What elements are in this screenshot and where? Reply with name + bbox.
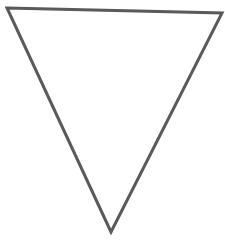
triangle-figure: [0, 0, 225, 245]
inverted-triangle-shape: [7, 8, 222, 232]
diagram-canvas: [0, 0, 225, 245]
